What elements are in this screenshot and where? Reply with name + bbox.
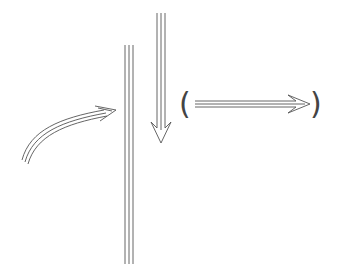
vertical-line xyxy=(125,45,133,264)
down-arrow xyxy=(151,13,171,143)
left-paren: ( xyxy=(179,86,191,121)
diagram-canvas: ( ) xyxy=(0,0,337,279)
right-arrow-group: ( ) xyxy=(179,86,322,121)
right-paren: ) xyxy=(310,86,322,121)
curved-arrow xyxy=(22,106,116,164)
